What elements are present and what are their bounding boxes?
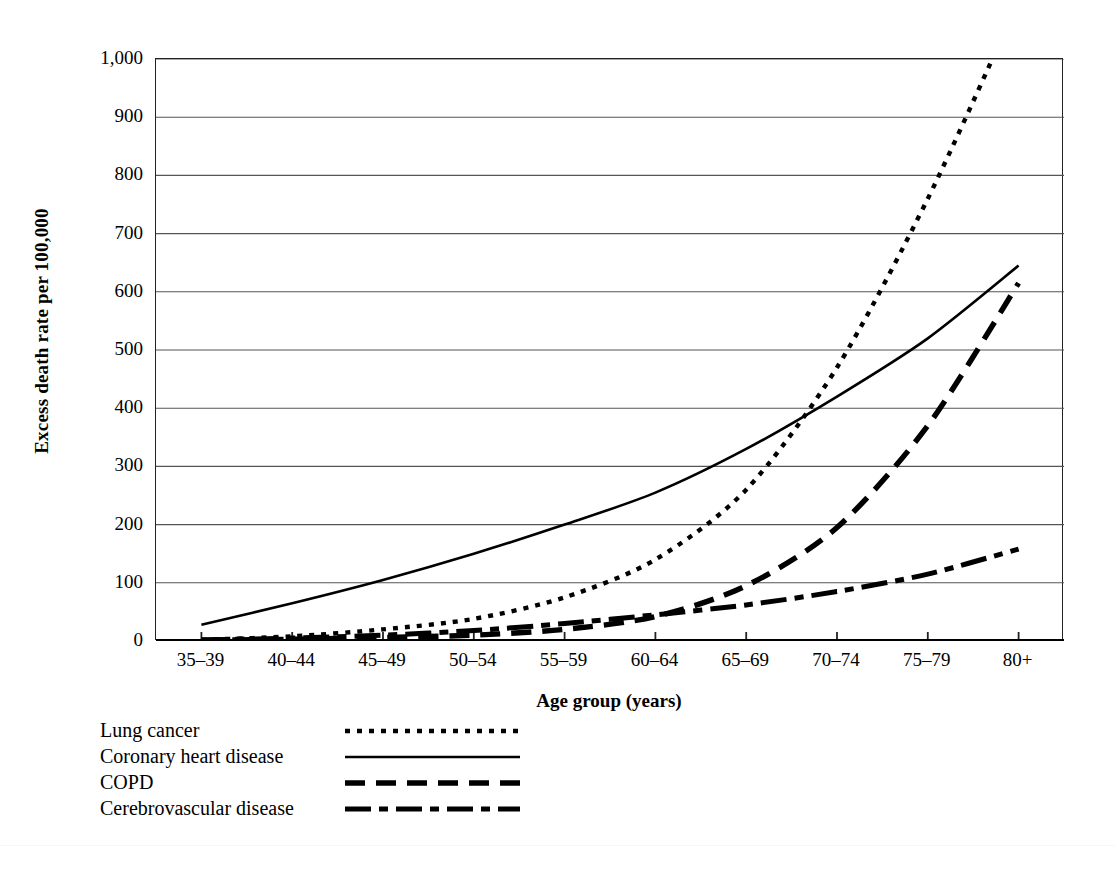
legend-item: COPD bbox=[100, 770, 520, 796]
y-tick-label: 1,000 bbox=[63, 48, 143, 67]
y-tick-label: 800 bbox=[63, 164, 143, 183]
y-axis-title: Excess death rate per 100,000 bbox=[31, 121, 53, 541]
legend-item: Coronary heart disease bbox=[100, 744, 520, 770]
y-tick-label: 700 bbox=[63, 223, 143, 242]
legend-label: COPD bbox=[100, 770, 153, 794]
legend-swatch bbox=[345, 770, 520, 794]
y-tick-label: 400 bbox=[63, 397, 143, 416]
legend-item: Lung cancer bbox=[100, 718, 520, 744]
y-tick-label: 900 bbox=[63, 106, 143, 125]
y-tick-label: 300 bbox=[63, 455, 143, 474]
series-line bbox=[201, 59, 1018, 640]
x-tick-label: 80+ bbox=[963, 650, 1073, 669]
y-tick-label: 100 bbox=[63, 572, 143, 591]
scan-artifact bbox=[0, 845, 1115, 846]
plot-area bbox=[155, 58, 1063, 640]
legend-swatch bbox=[345, 718, 520, 742]
plot-svg bbox=[156, 59, 1064, 641]
series-line bbox=[201, 283, 1018, 640]
figure-chart: Excess death rate per 100,000 Age group … bbox=[0, 0, 1115, 875]
series-line bbox=[201, 266, 1018, 625]
legend-swatch bbox=[345, 744, 520, 768]
y-tick-label: 600 bbox=[63, 281, 143, 300]
legend-swatch bbox=[345, 796, 520, 820]
legend-label: Coronary heart disease bbox=[100, 744, 283, 768]
y-tick-label: 500 bbox=[63, 339, 143, 358]
legend-label: Cerebrovascular disease bbox=[100, 796, 294, 820]
chart-legend: Lung cancerCoronary heart diseaseCOPDCer… bbox=[100, 718, 520, 822]
x-axis-title: Age group (years) bbox=[155, 690, 1063, 712]
y-tick-label: 200 bbox=[63, 514, 143, 533]
legend-item: Cerebrovascular disease bbox=[100, 796, 520, 822]
y-tick-label: 0 bbox=[63, 630, 143, 649]
legend-label: Lung cancer bbox=[100, 718, 199, 742]
